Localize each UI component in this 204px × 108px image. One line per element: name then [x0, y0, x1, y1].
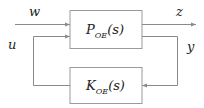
y-label: y — [187, 40, 194, 53]
plant-argument: (s) — [107, 22, 124, 37]
plant-symbol: P — [86, 22, 95, 37]
controller-block-label: KOE(s) — [86, 79, 125, 96]
controller-subscript: OE — [96, 87, 108, 96]
y-signal-line — [142, 37, 178, 86]
controller-argument: (s) — [108, 78, 125, 93]
plant-block-label: POE(s) — [86, 23, 124, 40]
w-label: w — [29, 5, 40, 18]
plant-subscript: OE — [95, 31, 107, 40]
z-label: z — [176, 5, 183, 18]
u-signal-line — [34, 37, 71, 86]
u-label: u — [8, 38, 16, 51]
controller-symbol: K — [86, 78, 96, 93]
block-diagram: w z u y POE(s) KOE(s) — [0, 0, 204, 108]
